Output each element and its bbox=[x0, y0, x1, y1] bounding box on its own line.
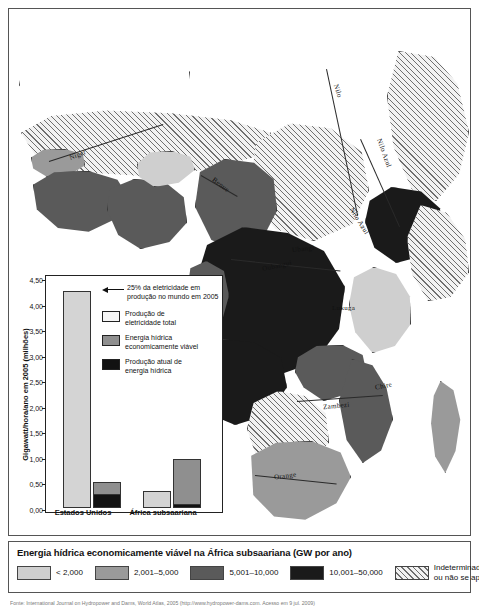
chart-category-label: Estados Unidos bbox=[55, 508, 112, 517]
chart-y-tick-label: 4,50 bbox=[29, 277, 43, 284]
map-legend-swatch-icon bbox=[95, 566, 129, 580]
chart-plot-area bbox=[46, 276, 222, 512]
map-legend-swatch-icon bbox=[190, 566, 224, 580]
hatch-swatch-icon bbox=[395, 566, 429, 580]
chart-y-tick-label: 4,00 bbox=[29, 302, 43, 309]
chart-bar-hydro bbox=[173, 459, 201, 508]
bar-segment-viable bbox=[173, 459, 201, 508]
chart-bar-total bbox=[143, 491, 171, 508]
map-legend-label: < 2,000 bbox=[56, 568, 83, 578]
bar-segment-total bbox=[63, 291, 91, 508]
river-label: Lukuga bbox=[332, 304, 355, 312]
map-legend-swatch-icon bbox=[17, 566, 51, 580]
chart-bar-hydro bbox=[93, 482, 121, 508]
map-legend-label: 5,001–10,000 bbox=[229, 568, 278, 578]
map-legend: Energia hídrica economicamente viável na… bbox=[8, 541, 471, 593]
map-legend-swatch-icon bbox=[290, 566, 324, 580]
map-legend-item-na: Indeterminado ou não se aplica bbox=[395, 563, 479, 582]
chart-category-label: África subsaariana bbox=[129, 508, 196, 517]
map-legend-label: 2,001–5,000 bbox=[134, 568, 179, 578]
chart-y-tick-label: 0,50 bbox=[29, 481, 43, 488]
chart-y-tick-label: 2,50 bbox=[29, 379, 43, 386]
chart-y-tick-label: 1,00 bbox=[29, 455, 43, 462]
map-legend-item: 5,001–10,000 bbox=[190, 566, 278, 580]
map-legend-label: 10,001–50,000 bbox=[329, 568, 382, 578]
map-legend-item: < 2,000 bbox=[17, 566, 83, 580]
africa-map: NigerBenueNiloNilo AzulNilo AzulUbangiOu… bbox=[8, 8, 471, 536]
bar-segment-total bbox=[143, 491, 171, 508]
chart-y-axis-title: Gigawatt/hora/ano em 2005 (milhões) bbox=[19, 275, 31, 513]
map-legend-title: Energia hídrica economicamente viável na… bbox=[17, 547, 462, 558]
chart-y-tick-label: 3,50 bbox=[29, 328, 43, 335]
map-legend-item: 2,001–5,000 bbox=[95, 566, 179, 580]
na-line1: Indeterminado bbox=[434, 563, 479, 572]
chart-y-tick-label: 1,50 bbox=[29, 430, 43, 437]
bar-segment-actual bbox=[93, 494, 121, 508]
source-caption: Fonte: International Journal on Hydropow… bbox=[10, 600, 475, 607]
map-figure: NigerBenueNiloNilo AzulNilo AzulUbangiOu… bbox=[0, 0, 479, 612]
chart-y-tick-label: 3,00 bbox=[29, 353, 43, 360]
map-legend-items: < 2,0002,001–5,0005,001–10,00010,001–50,… bbox=[17, 563, 462, 582]
map-legend-label-na: Indeterminado ou não se aplica bbox=[434, 563, 479, 582]
inset-bar-chart: 0,000,501,001,502,002,503,003,504,004,50… bbox=[45, 275, 223, 513]
chart-bar-total bbox=[63, 291, 91, 508]
chart-y-tick-label: 0,00 bbox=[29, 507, 43, 514]
na-line2: ou não se aplica bbox=[434, 573, 479, 582]
map-legend-item: 10,001–50,000 bbox=[290, 566, 382, 580]
chart-y-tick-label: 2,00 bbox=[29, 404, 43, 411]
chart-y-axis-title-text: Gigawatt/hora/ano em 2005 (milhões) bbox=[21, 328, 30, 461]
